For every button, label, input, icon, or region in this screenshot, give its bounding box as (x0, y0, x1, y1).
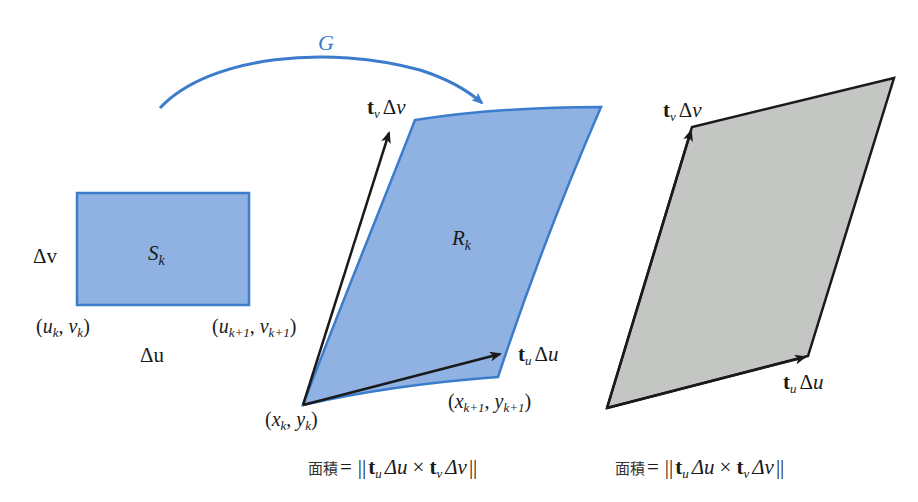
side-label-dv: Δv (33, 244, 58, 268)
parallelogram-label-tv-dv: tvΔv (663, 98, 702, 124)
diagram-stage: G Sk Δv Δu (uk, vk) (uk+1, vk+1) Rk tvΔv… (0, 0, 918, 502)
corner-label-uk-vk: (uk, vk) (36, 315, 90, 340)
vector-label-tu-du: tuΔu (518, 342, 559, 368)
domain-rect-sk (77, 193, 249, 305)
side-label-du: Δu (140, 343, 165, 367)
vector-label-tv-dv: tvΔv (367, 95, 406, 121)
area-formula-parallelogram: 面積=||tuΔu×tvΔv|| (615, 455, 784, 481)
mapping-arrow-g (160, 57, 482, 108)
diagram-svg: G Sk Δv Δu (uk, vk) (uk+1, vk+1) Rk tvΔv… (0, 0, 918, 502)
mapping-label-g: G (318, 30, 334, 55)
area-formula-region: 面積=||tuΔu×tvΔv|| (308, 455, 477, 481)
parallelogram-label-tu-du: tuΔu (783, 370, 824, 396)
tangent-parallelogram (607, 78, 894, 408)
corner-label-xk-yk: (xk, yk) (265, 408, 318, 433)
corner-label-uk1-vk1: (uk+1, vk+1) (212, 315, 296, 340)
corner-label-xk1-yk1: (xk+1, yk+1) (448, 390, 531, 415)
